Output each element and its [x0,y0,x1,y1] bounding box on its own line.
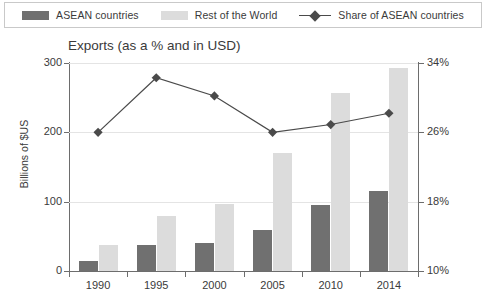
x-axis-category-label: 1990 [68,279,128,291]
line-diamond-marker-icon [299,10,331,21]
secondary-y-axis-tick-label: 18% [427,195,477,207]
x-axis-tick [244,272,245,277]
chart-container: ASEAN countries Rest of the World Share … [0,0,486,297]
y-axis-tick-label: 100 [2,195,62,207]
y-axis-tick-label: 300 [2,56,62,68]
y-axis-tick [64,132,69,133]
x-axis-category-label: 2014 [359,279,419,291]
diamond-marker-icon [210,91,219,100]
secondary-y-axis-tick [419,271,424,272]
x-axis-category-label: 2005 [243,279,303,291]
x-axis-tick [127,272,128,277]
x-axis-tick [302,272,303,277]
line-series-layer [69,63,418,271]
diamond-marker-icon [384,109,393,118]
secondary-y-axis-line [418,62,419,272]
diamond-marker-icon [268,128,277,137]
legend-item-share-of-asean-countries: Share of ASEAN countries [299,9,464,21]
x-axis-tick [185,272,186,277]
secondary-y-axis-tick-label: 26% [427,125,477,137]
x-axis-tick [69,272,70,277]
y-axis-tick-label: 200 [2,125,62,137]
x-axis-category-label: 1995 [126,279,186,291]
secondary-y-axis-tick [419,63,424,64]
y-axis-tick [64,202,69,203]
x-axis-tick [360,272,361,277]
secondary-y-axis-tick-label: 10% [427,264,477,276]
x-axis-category-label: 2000 [184,279,244,291]
share-line-path [98,78,389,133]
chart-legend: ASEAN countries Rest of the World Share … [4,2,482,28]
legend-label: ASEAN countries [56,9,139,21]
secondary-y-axis-tick-label: 34% [427,56,477,68]
secondary-y-axis-tick [419,132,424,133]
secondary-y-axis-tick [419,202,424,203]
diamond-marker-icon [326,120,335,129]
y-axis-tick [64,63,69,64]
y-axis-tick-label: 0 [2,264,62,276]
legend-label: Rest of the World [195,9,278,21]
x-axis-tick [418,272,419,277]
plot-area [69,63,418,271]
x-axis-category-label: 2010 [301,279,361,291]
legend-label: Share of ASEAN countries [338,9,464,21]
bar-swatch-icon [22,11,49,20]
legend-item-rest-of-the-world: Rest of the World [161,9,278,21]
chart-title: Exports (as a % and in USD) [68,38,241,53]
legend-item-asean-countries: ASEAN countries [22,9,139,21]
bar-swatch-icon [161,11,188,20]
